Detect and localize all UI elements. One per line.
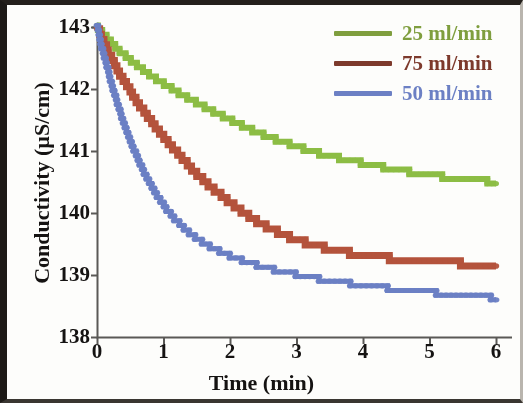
x-tick-label: 4	[343, 341, 383, 362]
x-tick-label: 3	[277, 341, 317, 362]
legend-item-25: 25 ml/min	[334, 18, 492, 48]
x-tick-label: 6	[476, 341, 516, 362]
x-axis-title: Time (min)	[0, 370, 523, 396]
x-tick-label: 2	[210, 341, 250, 362]
legend-swatch-25	[334, 31, 392, 36]
legend-swatch-50	[334, 91, 392, 96]
legend-swatch-75	[334, 61, 392, 66]
legend-label-25: 25 ml/min	[402, 23, 492, 44]
y-axis-title: Conductivity (µS/cm)	[29, 33, 55, 333]
legend-item-75: 75 ml/min	[334, 48, 492, 78]
x-tick-label: 5	[410, 341, 450, 362]
x-tick-label: 0	[77, 341, 117, 362]
legend-item-50: 50 ml/min	[334, 78, 492, 108]
legend-label-50: 50 ml/min	[402, 83, 492, 104]
legend: 25 ml/min 75 ml/min 50 ml/min	[334, 18, 492, 108]
chart-figure: 138139140141142143 0123456 Conductivity …	[0, 0, 523, 403]
legend-label-75: 75 ml/min	[402, 53, 492, 74]
x-tick-label: 1	[144, 341, 184, 362]
